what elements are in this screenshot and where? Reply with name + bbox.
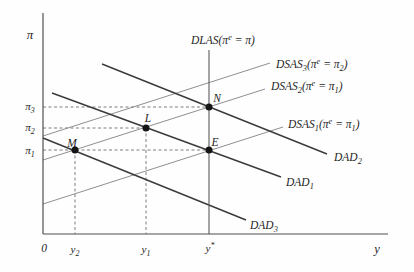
point-M-label: M: [66, 137, 78, 149]
point-E-label: E: [210, 136, 218, 148]
tick-pi1: π1: [25, 144, 35, 159]
dad2-label: DAD2: [333, 151, 362, 166]
dad-dsas-diagram: πy0π3π2π1y2y1y*DLAS(πe = π)DSAS3(πe = π2…: [0, 0, 414, 272]
tick-ystar: y*: [205, 241, 215, 254]
dsas2-label: DSAS2(πe = π1): [270, 79, 343, 95]
point-N-label: N: [212, 92, 222, 104]
origin-label: 0: [41, 242, 47, 254]
point-L: [143, 125, 150, 132]
dlas-label: DLAS(πe = π): [190, 33, 255, 47]
y-axis-label: y: [372, 242, 380, 256]
tick-pi3: π3: [25, 100, 35, 115]
point-N: [206, 104, 213, 111]
point-L-label: L: [144, 112, 151, 124]
dsas3-label: DSAS3(πe = π2): [275, 57, 348, 73]
dsas1-label: DSAS1(πe = π1): [287, 117, 360, 133]
tick-pi2: π2: [25, 121, 35, 136]
dad1-label: DAD1: [285, 176, 314, 191]
dsas1-curve: [43, 127, 283, 204]
tick-y2: y2: [70, 243, 80, 258]
figure-container: πy0π3π2π1y2y1y*DLAS(πe = π)DSAS3(πe = π2…: [0, 0, 414, 272]
tick-y1: y1: [141, 243, 151, 258]
dsas3-curve: [43, 63, 270, 136]
dad3-label: DAD3: [249, 219, 278, 234]
pi-axis-label: π: [27, 27, 34, 42]
